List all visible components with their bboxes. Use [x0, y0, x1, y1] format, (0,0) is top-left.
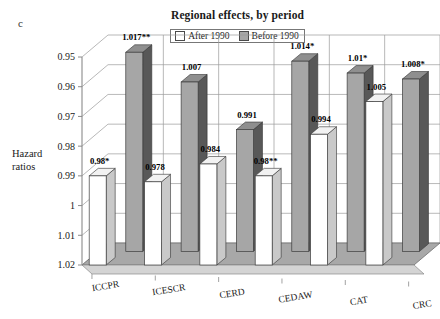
y-axis-tick-label: 1	[70, 200, 75, 211]
bar-after-1990	[200, 156, 226, 265]
bar-chart-plot: 1.021.0110.990.980.970.960.95 1.017**0.9…	[0, 0, 440, 319]
bar-value-label-after-1990: 0.994	[311, 114, 331, 124]
bar-value-label-before-1990: 1.007	[182, 62, 202, 72]
bar-after-1990	[366, 94, 392, 265]
bar-value-label-before-1990: 1.008*	[401, 59, 425, 69]
bar-value-label-after-1990: 0.98**	[254, 156, 278, 166]
x-axis-category-label: CAT	[349, 294, 368, 307]
y-axis-tick-label: 1.01	[58, 230, 76, 241]
bar-value-label-before-1990: 1.014*	[290, 41, 314, 51]
y-axis-tick-label: 0.95	[58, 51, 76, 62]
bar-after-1990	[89, 168, 115, 265]
bar-value-label-after-1990: 0.978	[145, 162, 165, 172]
x-axis-category-label: CERD	[219, 286, 246, 300]
bars-group: 1.017**0.98*1.0070.9780.9910.9841.014*0.…	[89, 32, 428, 265]
bar-value-label-after-1990: 0.984	[201, 144, 221, 154]
bar-value-label-before-1990: 1.01*	[348, 53, 368, 63]
y-axis-tick-label: 0.99	[58, 170, 76, 181]
x-axis-category-label: ICCPR	[91, 279, 120, 293]
x-axis-category-label: ICESCR	[152, 282, 187, 297]
x-axis-category-label: CEDAW	[278, 290, 313, 305]
bar-after-1990	[145, 174, 171, 265]
y-axis-tick-label: 0.98	[58, 141, 76, 152]
bar-before-1990	[402, 72, 428, 252]
y-axis: 1.021.0110.990.980.970.960.95	[58, 51, 83, 270]
bar-value-label-before-1990: 1.017**	[122, 32, 150, 42]
x-axis-category-label: CRC	[412, 298, 432, 311]
bar-value-label-after-1990: 1.005	[367, 82, 387, 92]
bar-value-label-before-1990: 0.991	[237, 110, 257, 120]
y-axis-tick-label: 0.96	[58, 81, 76, 92]
bar-after-1990	[255, 168, 281, 265]
y-axis-tick-label: 1.02	[58, 259, 76, 270]
category-labels: ICCPRICESCRCERDCEDAWCATCRC	[91, 274, 432, 311]
y-axis-tick-label: 0.97	[58, 111, 76, 122]
bar-value-label-after-1990: 0.98*	[90, 156, 110, 166]
bar-after-1990	[311, 127, 337, 265]
